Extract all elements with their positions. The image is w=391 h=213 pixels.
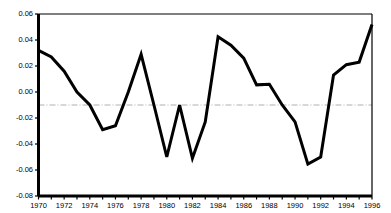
x-axis-tick-label: 1986	[232, 202, 256, 210]
chart-container: 0.060.040.020.00-0.02-0.04-0.06-0.08 197…	[0, 0, 391, 213]
y-axis-tick-label: 0.04	[18, 36, 33, 44]
data-line-0	[39, 24, 373, 164]
x-axis-tick-label: 1972	[52, 202, 76, 210]
data-series-group	[39, 24, 373, 164]
y-axis-tick-label: 0.02	[18, 62, 33, 70]
x-axis-tick-label: 1974	[78, 202, 102, 210]
x-axis-tick-label: 1978	[129, 202, 153, 210]
y-axis-tick-label: -0.08	[16, 192, 33, 200]
x-axis-tick-label: 1996	[360, 202, 384, 210]
x-axis-tick-label: 1970	[27, 202, 51, 210]
y-axis-tick-label: -0.02	[16, 114, 33, 122]
x-axis-tick-label: 1982	[180, 202, 204, 210]
y-axis-tick-label: -0.04	[16, 140, 33, 148]
x-axis-tick-label: 1990	[283, 202, 307, 210]
y-axis-tick-label: 0.06	[18, 10, 33, 18]
x-axis-tick-label: 1976	[103, 202, 127, 210]
x-axis-tick-label: 1980	[155, 202, 179, 210]
axis-ticks-group	[35, 14, 372, 200]
chart-plot-area	[0, 0, 391, 213]
x-axis-tick-label: 1994	[334, 202, 358, 210]
x-axis-tick-label: 1988	[257, 202, 281, 210]
x-axis-tick-label: 1992	[309, 202, 333, 210]
y-axis-tick-label: 0.00	[18, 88, 33, 96]
y-axis-tick-label: -0.06	[16, 166, 33, 174]
x-axis-tick-label: 1984	[206, 202, 230, 210]
